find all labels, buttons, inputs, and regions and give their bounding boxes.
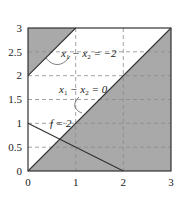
annotation-f-eq-2: f = 2	[50, 117, 72, 129]
annotation-x1-x2-0: x1 − x2 = 0	[58, 83, 108, 97]
svg-text:0: 0	[25, 176, 31, 188]
svg-text:3: 3	[17, 22, 23, 34]
svg-text:0: 0	[17, 165, 23, 177]
svg-text:1: 1	[73, 176, 79, 188]
annotation-x1-x2-neg2: x1 − x2 = −2	[60, 47, 117, 61]
svg-text:3: 3	[168, 176, 174, 188]
svg-text:1: 1	[17, 117, 23, 129]
svg-text:0.5: 0.5	[8, 141, 22, 153]
svg-text:2: 2	[17, 69, 23, 81]
svg-text:2: 2	[121, 176, 127, 188]
svg-text:2.5: 2.5	[8, 46, 22, 58]
chart-canvas: x1 − x2 = −2 x1 − x2 = 0 f = 2 0 0.5 1 1…	[0, 0, 183, 197]
svg-text:1.5: 1.5	[8, 93, 22, 105]
x-axis-ticks: 0 1 2 3	[25, 176, 174, 188]
y-axis-ticks: 0 0.5 1 1.5 2 2.5 3	[8, 22, 22, 177]
